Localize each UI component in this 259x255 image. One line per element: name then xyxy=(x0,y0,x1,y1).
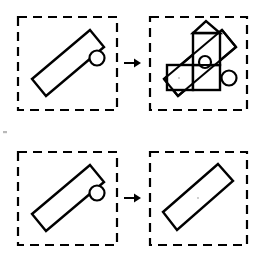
panel-bottom-left[interactable] xyxy=(18,152,117,245)
print-smudge xyxy=(197,197,199,199)
arrow-top xyxy=(124,59,141,68)
row-top xyxy=(18,17,247,110)
panel-top-right[interactable] xyxy=(150,17,247,110)
arrow-bottom xyxy=(124,194,141,203)
apex-triangle xyxy=(193,21,220,33)
arrow-head-icon xyxy=(134,194,141,203)
panel-top-left[interactable] xyxy=(18,17,117,110)
row-bottom xyxy=(18,152,247,245)
knob-circle xyxy=(90,186,105,201)
panel-bottom-right[interactable] xyxy=(150,152,247,245)
diagram-canvas xyxy=(0,0,259,255)
knob-circle xyxy=(222,71,237,86)
arrow-head-icon xyxy=(134,59,141,68)
shape-transformation-diagram xyxy=(0,0,259,255)
knob-circle xyxy=(90,51,105,66)
tilted-bar xyxy=(163,164,233,230)
print-smudge xyxy=(178,77,180,79)
inner-small-circle xyxy=(199,56,211,68)
scan-artifact xyxy=(3,131,7,133)
